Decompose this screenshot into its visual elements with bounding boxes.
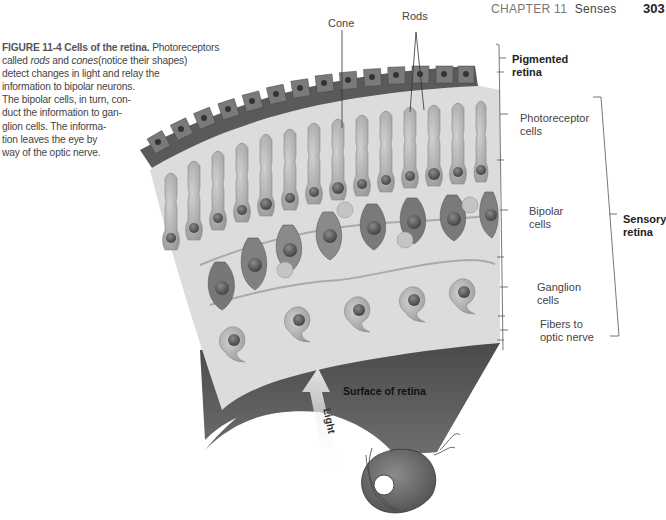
label-line: Pigmented: [512, 53, 568, 66]
label-sensory-retina: Sensory retina: [623, 213, 666, 239]
label-line: cells: [529, 218, 563, 231]
label-fibers-optic-nerve: Fibers to optic nerve: [540, 318, 594, 344]
label-line: Photoreceptor: [520, 112, 589, 125]
label-line: retina: [512, 66, 568, 79]
label-photoreceptor-cells: Photoreceptor cells: [520, 112, 589, 138]
label-line: retina: [623, 226, 666, 239]
label-line: Fibers to: [540, 318, 594, 331]
label-line: Sensory: [623, 213, 666, 226]
label-surface-of-retina: Surface of retina: [343, 385, 426, 398]
label-line: cells: [537, 294, 581, 307]
label-pigmented-retina: Pigmented retina: [512, 53, 568, 79]
label-line: Ganglion: [537, 281, 581, 294]
label-ganglion-cells: Ganglion cells: [537, 281, 581, 307]
label-line: optic nerve: [540, 331, 594, 344]
sensory-retina-bracket: [593, 97, 619, 336]
label-rods: Rods: [402, 10, 428, 23]
label-bipolar-cells: Bipolar cells: [529, 205, 563, 231]
label-cone: Cone: [328, 17, 354, 30]
label-line: cells: [520, 125, 589, 138]
label-line: Bipolar: [529, 205, 563, 218]
